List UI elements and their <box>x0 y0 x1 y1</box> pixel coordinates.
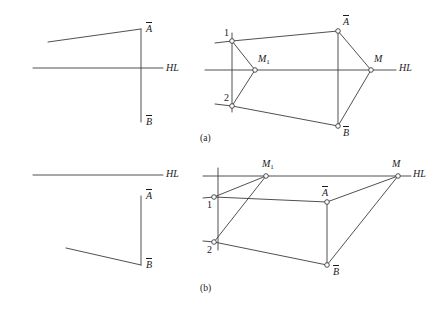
perspective-construction-figure <box>0 0 436 311</box>
b-right-node-b <box>325 263 330 268</box>
a-right-node-b <box>336 124 341 129</box>
caption-a: (a) <box>200 133 211 143</box>
b-right-node-a <box>325 200 330 205</box>
a-right-label-HL: HL <box>399 63 412 73</box>
label-subscript: 1 <box>266 58 270 66</box>
a-right-node-m <box>369 68 374 73</box>
b-right-label-M: M <box>392 159 400 169</box>
b-left-label-A: A <box>146 189 152 201</box>
b-right-label-M1: M1 <box>262 159 274 171</box>
b-right-label-HL: HL <box>413 169 426 179</box>
b-right-node-2 <box>212 240 217 245</box>
b-right-node-m1 <box>264 174 269 179</box>
label-text: B <box>146 116 152 127</box>
label-text: B <box>146 259 152 270</box>
a-right-node-1 <box>230 39 235 44</box>
label-text: A <box>322 187 328 198</box>
b-right-label-A: A <box>322 186 328 198</box>
label-text: B <box>343 127 349 138</box>
a-right-label-1: 1 <box>224 28 229 38</box>
label-text: B <box>333 266 339 277</box>
a-left-label-B: B <box>146 115 152 127</box>
a-right-label-2: 2 <box>224 93 229 103</box>
label-text: A <box>146 23 152 34</box>
a-right-label-M1: M1 <box>258 54 270 66</box>
b-right-label-B: B <box>333 265 339 277</box>
a-right-label-A: A <box>343 15 349 27</box>
label-text: A <box>343 16 349 27</box>
b-left-label-HL: HL <box>166 169 179 179</box>
a-right-label-B: B <box>343 126 349 138</box>
a-right-node-2 <box>230 104 235 109</box>
a-right-node-a <box>336 29 341 34</box>
b-right-node-m <box>396 174 401 179</box>
label-text: A <box>146 190 152 201</box>
a-left-label-A: A <box>146 22 152 34</box>
b-right-node-1 <box>212 195 217 200</box>
a-left-label-HL: HL <box>166 63 179 73</box>
a-right-node-m1 <box>253 68 258 73</box>
b-left-label-B: B <box>146 258 152 270</box>
caption-b: (b) <box>200 283 211 293</box>
a-right-label-M: M <box>374 54 382 64</box>
b-right-label-1: 1 <box>207 200 212 210</box>
b-right-label-2: 2 <box>207 245 212 255</box>
label-subscript: 1 <box>270 163 274 171</box>
figure-background <box>0 0 436 311</box>
